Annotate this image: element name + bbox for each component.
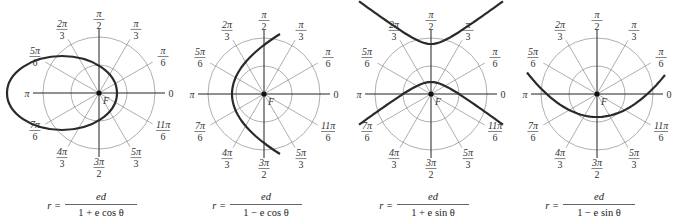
angle-label-330: 11π6: [488, 120, 503, 143]
angle-label-numerator: π: [261, 9, 267, 20]
grid-ray: [597, 63, 651, 94]
angle-label-210: 7π6: [527, 120, 538, 143]
formula-denominator: 1 + e sin θ: [411, 207, 455, 218]
angle-label-30: π6: [656, 46, 667, 69]
angle-label-denominator: 6: [197, 132, 202, 143]
formula-denominator: 1 − e cos θ: [243, 207, 288, 218]
angle-label-30: π6: [490, 46, 501, 69]
angle-label-denominator: 6: [493, 58, 498, 69]
angle-label-denominator: 3: [466, 159, 471, 170]
grid-ray: [566, 94, 597, 148]
formula-denominator: 1 − e sin θ: [577, 207, 621, 218]
angle-label-numerator: 3π: [591, 157, 603, 168]
angle-label-300: 5π3: [296, 147, 307, 170]
angle-label-numerator: 4π: [389, 147, 400, 158]
grid-ray: [264, 63, 318, 94]
polar-panel-2: F0π6π3π22π35π6π7π64π33π25π311π6r =ed1 − …: [189, 9, 338, 218]
angle-label-120: 2π3: [389, 19, 400, 42]
angle-label-denominator: 6: [493, 132, 498, 143]
angle-label-numerator: 5π: [131, 146, 142, 157]
angle-label-numerator: 2π: [57, 18, 68, 29]
angle-label-numerator: π: [298, 19, 304, 30]
grid-ray: [45, 93, 99, 124]
angle-label-denominator: 3: [632, 31, 637, 42]
grid-ray: [99, 39, 130, 93]
grid-ray: [543, 63, 597, 94]
angle-label-denominator: 2: [595, 169, 600, 180]
angle-label-text: 0: [334, 89, 339, 100]
angle-label-330: 11π6: [654, 120, 669, 143]
angle-label-text: π: [24, 88, 30, 99]
angle-label-numerator: π: [594, 9, 600, 20]
angle-label-text: 0: [501, 89, 506, 100]
angle-label-numerator: π: [326, 46, 332, 57]
angle-label-numerator: π: [659, 46, 665, 57]
angle-label-denominator: 2: [97, 20, 102, 31]
angle-label-numerator: 7π: [195, 120, 206, 131]
angle-label-text: π: [356, 89, 362, 100]
formula-2: r =ed1 − e cos θ: [212, 191, 302, 218]
angle-label-240: 4π3: [57, 146, 68, 169]
angle-label-denominator: 3: [392, 31, 397, 42]
angle-label-180: π: [24, 88, 30, 99]
angle-label-30: π6: [323, 46, 334, 69]
grid-ray: [45, 62, 99, 93]
grid-ray: [377, 94, 431, 125]
angle-label-150: 5π6: [29, 45, 40, 68]
angle-label-denominator: 3: [134, 30, 139, 41]
grid-ray: [566, 40, 597, 94]
grid-ray: [99, 62, 153, 93]
angle-label-90: π2: [426, 9, 437, 32]
grid-ray: [264, 40, 295, 94]
angle-label-denominator: 3: [60, 158, 65, 169]
polar-panel-1: F0π6π3π22π35π6π7π64π33π25π311π6r =ed1 + …: [7, 8, 174, 218]
angle-label-180: π: [356, 89, 362, 100]
angle-label-denominator: 3: [225, 159, 230, 170]
polar-panel-3: F0π6π3π22π35π6π7π64π33π25π311π6r =ed1 + …: [356, 1, 505, 218]
angle-label-300: 5π3: [629, 147, 640, 170]
angle-label-text: 0: [169, 88, 174, 99]
angle-label-0: 0: [667, 89, 672, 100]
angle-label-240: 4π3: [222, 147, 233, 170]
angle-label-numerator: 7π: [362, 120, 373, 131]
focus-label: F: [267, 96, 275, 107]
angle-label-numerator: 7π: [528, 120, 539, 131]
formula-numerator: ed: [428, 191, 439, 202]
angle-label-0: 0: [334, 89, 339, 100]
angle-label-denominator: 3: [392, 159, 397, 170]
angle-label-denominator: 6: [530, 132, 535, 143]
angle-label-denominator: 3: [558, 159, 563, 170]
angle-label-numerator: π: [428, 9, 434, 20]
angle-label-numerator: π: [96, 8, 102, 19]
angle-label-300: 5π3: [463, 147, 474, 170]
angle-label-numerator: 5π: [195, 46, 206, 57]
angle-label-numerator: 11π: [156, 119, 171, 130]
angle-label-numerator: 5π: [30, 45, 41, 56]
angle-label-30: π6: [158, 45, 169, 68]
angle-label-denominator: 6: [32, 131, 37, 142]
angle-label-numerator: π: [493, 46, 499, 57]
focus-label: F: [102, 95, 110, 106]
angle-label-denominator: 6: [659, 58, 664, 69]
angle-label-denominator: 6: [364, 58, 369, 69]
angle-label-denominator: 2: [262, 169, 267, 180]
angle-label-denominator: 6: [326, 58, 331, 69]
angle-label-numerator: π: [133, 18, 139, 29]
angle-label-numerator: 7π: [30, 119, 41, 130]
angle-label-numerator: 5π: [463, 147, 474, 158]
angle-label-numerator: 4π: [555, 147, 566, 158]
angle-label-denominator: 3: [299, 159, 304, 170]
angle-label-210: 7π6: [194, 120, 205, 143]
grid-ray: [210, 94, 264, 125]
angle-label-270: 3π2: [425, 157, 437, 180]
angle-label-60: π3: [629, 19, 640, 42]
formula-lhs: r =: [545, 200, 559, 211]
angle-label-denominator: 3: [134, 158, 139, 169]
angle-label-denominator: 2: [262, 21, 267, 32]
angle-label-270: 3π2: [93, 156, 105, 179]
angle-label-330: 11π6: [156, 119, 171, 142]
angle-label-90: π2: [592, 9, 603, 32]
angle-label-numerator: 5π: [629, 147, 640, 158]
angle-label-270: 3π2: [591, 157, 603, 180]
angle-label-denominator: 6: [161, 57, 166, 68]
